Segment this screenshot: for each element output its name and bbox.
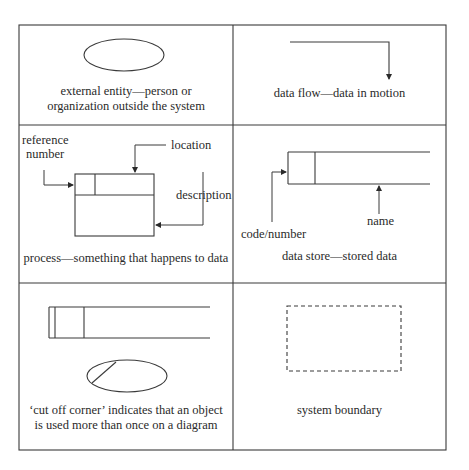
name-label: name xyxy=(367,214,394,228)
cut-off-corner-caption: ‘cut off corner’ indicates that an objec… xyxy=(19,403,233,433)
caption-line: process—something that happens to data xyxy=(19,251,233,266)
system-boundary-caption: system boundary xyxy=(233,403,446,418)
caption-line: system boundary xyxy=(233,403,446,418)
number-label-line: number xyxy=(22,147,68,161)
code-number-label: code/number xyxy=(241,227,306,241)
caption-line: ‘cut off corner’ indicates that an objec… xyxy=(19,403,233,418)
caption-line: organization outside the system xyxy=(19,99,233,114)
reference-number-label: reference number xyxy=(22,133,68,161)
caption-line: data flow—data in motion xyxy=(233,86,446,101)
reference-label-line: reference xyxy=(22,133,68,147)
data-flow-caption: data flow—data in motion xyxy=(233,86,446,101)
description-label: description xyxy=(176,188,232,202)
data-store-caption: data store—stored data xyxy=(233,249,446,264)
dfd-symbols-table xyxy=(0,0,469,470)
location-label: location xyxy=(171,138,211,152)
external-entity-ellipse-symbol xyxy=(84,39,164,71)
data-store-symbol xyxy=(288,152,430,184)
data-flow-arrow-symbol xyxy=(290,42,389,79)
caption-line: is used more than once on a diagram xyxy=(19,418,233,433)
cut-off-corner-data-store-symbol xyxy=(49,307,210,338)
cut-off-corner-ellipse-symbol xyxy=(87,360,167,392)
external-entity-caption: external entity—person or organization o… xyxy=(19,84,233,114)
process-caption: process—something that happens to data xyxy=(19,251,233,266)
system-boundary-dashed-rect-symbol xyxy=(287,306,401,371)
process-box-symbol xyxy=(75,174,154,236)
caption-line: data store—stored data xyxy=(233,249,446,264)
caption-line: external entity—person or xyxy=(19,84,233,99)
